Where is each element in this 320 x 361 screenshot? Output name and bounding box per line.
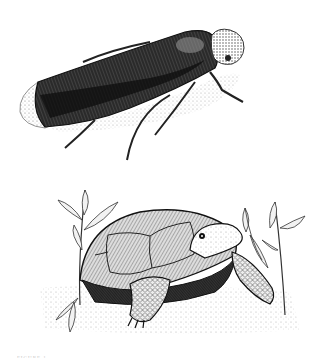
tortoise-eye-highlight xyxy=(201,235,203,237)
tortoise-illustration xyxy=(0,180,320,350)
moth-drawing xyxy=(0,0,320,180)
tortoise-drawing xyxy=(0,180,320,350)
moth-illustration xyxy=(0,0,320,180)
illustration-figure: FIGURE 1 xyxy=(0,0,320,361)
moth-eye xyxy=(225,55,231,61)
moth-wing-highlight xyxy=(176,37,204,53)
figure-caption: FIGURE 1 xyxy=(17,355,57,358)
